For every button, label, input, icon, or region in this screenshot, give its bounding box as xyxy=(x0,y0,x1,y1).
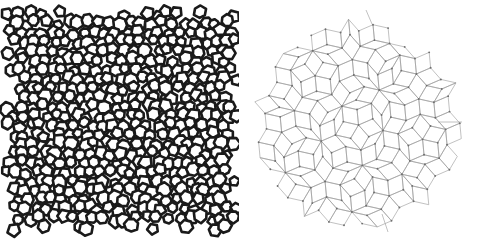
polygon-ring xyxy=(147,224,158,235)
polygon-ring xyxy=(28,14,39,26)
tiling-vertex-dot xyxy=(331,152,333,154)
polygon-ring xyxy=(194,5,206,17)
panel-rhombus-tiling xyxy=(239,0,477,243)
tiling-vertex-dot xyxy=(374,143,376,145)
tiling-vertex-dot xyxy=(264,112,266,114)
polygon-ring xyxy=(64,90,75,102)
polygon-ring xyxy=(124,219,138,232)
tiling-vertex-dot xyxy=(363,86,365,88)
polygon-ring xyxy=(193,192,204,204)
tiling-vertex-dot xyxy=(269,168,271,170)
tiling-vertex-dot xyxy=(376,168,378,170)
tiling-vertex-dot xyxy=(356,109,358,111)
polygon-ring xyxy=(230,176,239,185)
tiling-vertex-dot xyxy=(361,164,363,166)
tiling-vertex-dot xyxy=(279,116,281,118)
tiling-vertex-dot xyxy=(405,120,407,122)
tiling-vertex-dot xyxy=(385,60,387,62)
tiling-vertex-dot xyxy=(381,114,383,116)
tiling-vertex-dot xyxy=(372,24,374,26)
tiling-vertex-dot xyxy=(373,39,375,41)
polygon-ring xyxy=(2,47,15,60)
polygon-ring xyxy=(37,98,48,109)
tiling-vertex-dot xyxy=(322,61,324,63)
polygon-ring xyxy=(197,165,208,176)
tiling-vertex-dot xyxy=(378,89,380,91)
tiling-vertex-dot xyxy=(340,32,342,34)
tiling-vertex-dot xyxy=(376,158,378,160)
tiling-vertex-dot xyxy=(397,133,399,135)
tiling-vertex-dot xyxy=(350,196,352,198)
tiling-vertex-dot xyxy=(445,128,447,130)
tiling-vertex-dot xyxy=(377,74,379,76)
tiling-vertex-dot xyxy=(391,220,393,222)
tiling-vertex-dot xyxy=(343,224,345,226)
tiling-vertex-dot xyxy=(295,183,297,185)
tiling-vertex-dot xyxy=(328,221,330,223)
polygon-ring xyxy=(232,75,239,86)
polygon-rings-layer xyxy=(0,5,239,237)
tiling-vertex-dot xyxy=(437,142,439,144)
polygon-ring xyxy=(229,34,239,45)
tiling-vertex-dot xyxy=(351,59,353,61)
polygon-ring xyxy=(54,6,65,17)
tiling-vertex-dot xyxy=(355,99,357,101)
tiling-vertex-dot xyxy=(358,30,360,32)
tiling-vertex-dot xyxy=(339,184,341,186)
tiling-vertex-dot xyxy=(409,160,411,162)
tiling-vertex-dot xyxy=(359,45,361,47)
polygon-ring xyxy=(38,220,50,233)
tiling-vertex-dot xyxy=(320,140,322,142)
tiling-vertex-dot xyxy=(304,63,306,65)
figure-root xyxy=(0,0,477,243)
tiling-vertex-dot xyxy=(300,175,302,177)
tiling-vertex-dot xyxy=(325,28,327,30)
polygon-ring xyxy=(7,224,20,237)
tiling-vertex-dot xyxy=(310,187,312,189)
tiling-vertex-dot xyxy=(312,50,314,52)
polygon-ring xyxy=(168,202,178,213)
tiling-vertex-dot xyxy=(291,143,293,145)
tiling-vertex-dot xyxy=(332,167,334,169)
tiling-vertex-dot xyxy=(388,101,390,103)
tiling-vertex-dot xyxy=(415,73,417,75)
tiling-vertex-dot xyxy=(310,34,312,36)
tiling-vertex-dot xyxy=(274,160,276,162)
tiling-vertex-dot xyxy=(353,178,355,180)
tiling-vertex-dot xyxy=(258,141,260,143)
tiling-vertex-dot xyxy=(365,205,367,207)
tiling-vertex-dot xyxy=(337,65,339,67)
tiling-vertex-dot xyxy=(345,146,347,148)
polygon-ring xyxy=(154,15,165,26)
tiling-vertex-dot xyxy=(273,145,275,147)
tiling-vertex-dot xyxy=(418,98,420,100)
polygon-ring xyxy=(227,138,239,151)
polygon-ring xyxy=(172,81,183,91)
polygon-ring xyxy=(194,208,207,223)
tiling-vertex-dot xyxy=(298,56,300,58)
tiling-vertex-dot xyxy=(326,44,328,46)
tiling-vertex-dot xyxy=(404,104,406,106)
tiling-vertex-dot xyxy=(283,98,285,100)
tiling-vertex-dot xyxy=(383,145,385,147)
tiling-vertex-dot xyxy=(441,88,443,90)
tiling-vertex-dot xyxy=(372,176,374,178)
tiling-vertex-dot xyxy=(434,117,436,119)
tiling-vertex-dot xyxy=(358,124,360,126)
tiling-vertex-dot xyxy=(333,119,335,121)
tiling-vertex-dot xyxy=(312,154,314,156)
tiling-vertex-dot xyxy=(374,49,376,51)
tiling-vertex-dot xyxy=(266,128,268,130)
tiling-vertex-dot xyxy=(331,94,333,96)
tiling-vertex-dot xyxy=(327,111,329,113)
tiling-vertex-dot xyxy=(293,110,295,112)
tiling-vertex-dot xyxy=(389,43,391,45)
tiling-vertex-dot xyxy=(324,181,326,183)
tiling-vertex-dot xyxy=(368,78,370,80)
panel-amorphous-network xyxy=(0,0,239,243)
tiling-vertex-dot xyxy=(302,200,304,202)
tiling-vertex-dot xyxy=(399,148,401,150)
tiling-vertex-dot xyxy=(350,137,352,139)
tiling-vertex-dot xyxy=(339,80,341,82)
tiling-vertex-dot xyxy=(393,93,395,95)
